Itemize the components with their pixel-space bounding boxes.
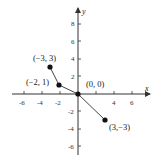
x-tick-label: 4 [112, 99, 116, 107]
data-point [56, 82, 61, 87]
y-axis-label: y [81, 7, 86, 16]
point-label: (−3, 3) [33, 53, 56, 63]
y-tick-label: 6 [71, 38, 75, 46]
data-point [47, 64, 52, 69]
x-tick-label: 6 [130, 99, 134, 107]
y-tick-label: -2 [68, 108, 74, 116]
x-tick-label: -2 [55, 99, 61, 107]
y-tick-label: 4 [71, 55, 75, 63]
data-point [75, 91, 80, 96]
y-tick-label: -6 [68, 143, 74, 151]
y-tick-label: 8 [71, 20, 75, 28]
point-label: (0, 0) [86, 79, 105, 89]
data-point [102, 117, 107, 122]
y-tick-label: 2 [71, 73, 75, 81]
point-label: (3,−3) [109, 122, 130, 132]
point-label: (−2, 1) [26, 77, 49, 87]
x-tick-label: -6 [19, 99, 25, 107]
x-tick-label: -4 [37, 99, 43, 107]
y-tick-label: -4 [68, 125, 74, 133]
x-axis-label: x [144, 84, 149, 93]
coordinate-plane: x y -6 -4 -2 4 6 8 6 4 2 -2 -4 -6 (−3, 3… [0, 0, 155, 161]
